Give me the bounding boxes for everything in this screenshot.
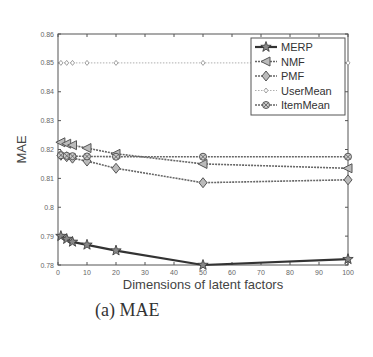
x-tick-label: 100 bbox=[342, 269, 354, 276]
data-point-merp bbox=[111, 245, 121, 255]
data-point-usermean bbox=[346, 60, 350, 65]
legend-label-itemmean: ItemMean bbox=[281, 99, 330, 111]
data-point-usermean bbox=[59, 60, 63, 65]
data-point-pmf bbox=[199, 178, 207, 188]
x-tick-label: 40 bbox=[170, 269, 178, 276]
y-tick-label: 0.82 bbox=[40, 146, 54, 153]
mae-line-chart: 01020304050607080901000.780.790.80.810.8… bbox=[0, 0, 373, 300]
x-tick-label: 30 bbox=[141, 269, 149, 276]
y-tick-label: 0.85 bbox=[40, 59, 54, 66]
x-tick-label: 0 bbox=[56, 269, 60, 276]
x-tick-label: 90 bbox=[315, 269, 323, 276]
legend-label-merp: MERP bbox=[281, 41, 313, 53]
y-tick-label: 0.81 bbox=[40, 175, 54, 182]
x-tick-label: 10 bbox=[83, 269, 91, 276]
x-tick-label: 50 bbox=[199, 269, 207, 276]
data-point-nmf bbox=[198, 159, 207, 168]
data-point-usermean bbox=[85, 60, 89, 65]
data-point-nmf bbox=[82, 144, 91, 153]
data-point-usermean bbox=[201, 60, 205, 65]
y-tick-label: 0.83 bbox=[40, 117, 54, 124]
legend-label-usermean: UserMean bbox=[281, 85, 332, 97]
data-point-merp bbox=[82, 239, 92, 249]
legend-label-nmf: NMF bbox=[281, 56, 305, 68]
x-tick-label: 70 bbox=[257, 269, 265, 276]
y-tick-label: 0.78 bbox=[40, 262, 54, 269]
data-point-merp bbox=[198, 260, 208, 270]
data-point-usermean bbox=[114, 60, 118, 65]
data-point-pmf bbox=[344, 175, 352, 185]
x-tick-label: 20 bbox=[112, 269, 120, 276]
x-tick-label: 80 bbox=[286, 269, 294, 276]
legend-label-pmf: PMF bbox=[281, 70, 305, 82]
data-point-usermean bbox=[71, 60, 75, 65]
y-tick-label: 0.8 bbox=[44, 204, 54, 211]
y-tick-label: 0.86 bbox=[40, 31, 54, 38]
series-line-merp bbox=[61, 236, 348, 265]
data-point-usermean bbox=[65, 60, 69, 65]
x-axis-label: Dimensions of latent factors bbox=[123, 277, 284, 292]
x-tick-label: 60 bbox=[228, 269, 236, 276]
figure-caption: (a) MAE bbox=[95, 300, 159, 321]
y-tick-label: 0.79 bbox=[40, 233, 54, 240]
plot-area: 01020304050607080901000.780.790.80.810.8… bbox=[14, 31, 354, 293]
data-point-pmf bbox=[112, 163, 120, 173]
y-tick-label: 0.84 bbox=[40, 88, 54, 95]
y-axis-label: MAE bbox=[14, 135, 29, 164]
